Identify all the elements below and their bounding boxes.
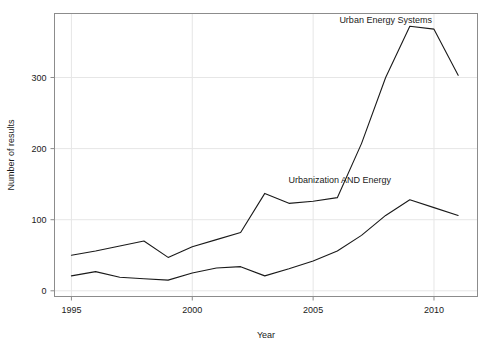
chart-figure: 19952000200520100100200300 Urban Energy … [0, 0, 499, 348]
series-label-0: Urban Energy Systems [339, 15, 432, 25]
series-line-1 [71, 200, 458, 280]
y-axis-title: Number of results [6, 119, 16, 191]
line-chart-svg: 19952000200520100100200300 Urban Energy … [0, 0, 499, 348]
y-tick-label: 100 [31, 215, 46, 225]
y-tick-label: 200 [31, 144, 46, 154]
x-tick-label: 2000 [182, 305, 202, 315]
series-lines-group [71, 26, 458, 280]
series-line-0 [71, 26, 458, 257]
y-tick-label: 300 [31, 73, 46, 83]
plot-frame [55, 14, 478, 297]
series-label-1: Urbanization AND Energy [288, 175, 391, 185]
gridlines-group [55, 14, 478, 297]
series-annotations-group: Urban Energy SystemsUrbanization AND Ene… [288, 15, 432, 184]
x-axis-title: Year [257, 330, 275, 340]
y-tick-label: 0 [41, 286, 46, 296]
tick-labels-group: 19952000200520100100200300 [31, 73, 444, 315]
x-tick-label: 1995 [61, 305, 81, 315]
x-tick-label: 2005 [303, 305, 323, 315]
x-tick-label: 2010 [424, 305, 444, 315]
